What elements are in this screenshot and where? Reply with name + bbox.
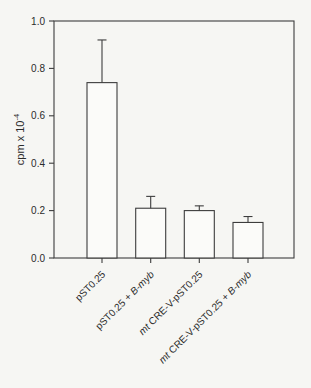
- bar: [87, 83, 117, 258]
- x-category-label: pST0.25: [73, 268, 108, 303]
- bar: [184, 211, 214, 258]
- figure-canvas: 0.00.20.40.60.81.0cpm x 10-4pST0.25pST0.…: [0, 0, 311, 388]
- y-axis-title: cpm x 10-4: [12, 114, 26, 165]
- y-tick-label: 0.8: [31, 63, 45, 74]
- y-tick-label: 0.0: [31, 253, 45, 264]
- bar: [136, 208, 166, 258]
- bar: [233, 222, 263, 258]
- bar-chart: 0.00.20.40.60.81.0cpm x 10-4pST0.25pST0.…: [0, 0, 311, 388]
- y-tick-label: 0.4: [31, 158, 45, 169]
- x-category-label: mt CRE-V-pST0.25 + B-myb: [157, 268, 254, 365]
- y-tick-label: 0.2: [31, 205, 45, 216]
- y-tick-label: 1.0: [31, 16, 45, 27]
- y-tick-label: 0.6: [31, 110, 45, 121]
